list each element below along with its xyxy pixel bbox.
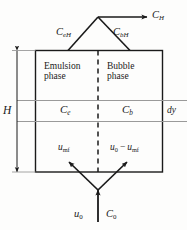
slice-thickness-label: dy	[167, 105, 176, 115]
bubble-velocity-label: u0−umf	[110, 142, 139, 152]
emulsion-exit-concentration-label: CeH	[56, 26, 71, 37]
height-dimension-arrow	[12, 51, 36, 173]
bubble-concentration-label: Cb	[122, 104, 133, 116]
bubble-phase-label-line2: phase	[107, 71, 134, 81]
diagram-canvas	[0, 0, 187, 230]
emulsion-concentration-label: Ce	[60, 104, 71, 116]
outlet-concentration-label: CH	[152, 9, 164, 20]
bubble-exit-concentration-label: CbH	[113, 26, 128, 37]
inlet-split-arrows	[69, 162, 127, 190]
slice-boundary-lines	[17, 101, 187, 122]
emulsion-phase-label-line1: Emulsion	[44, 61, 80, 71]
emulsion-velocity-label: umf	[58, 142, 70, 152]
emulsion-phase-label: Emulsion phase	[44, 61, 80, 82]
bed-height-label: H	[3, 104, 11, 116]
inlet-velocity-label: u0	[74, 208, 83, 219]
inlet-concentration-label: C0	[106, 208, 116, 219]
figure-container: CH CeH CbH Emulsion phase Bubble phase H…	[0, 0, 187, 230]
bubble-phase-label: Bubble phase	[107, 61, 134, 82]
bubble-phase-label-line1: Bubble	[107, 61, 134, 71]
emulsion-phase-label-line2: phase	[44, 71, 80, 81]
